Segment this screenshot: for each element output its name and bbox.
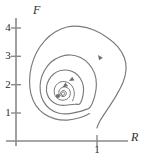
flow-arrow-middle-loop <box>69 77 74 81</box>
figure-container: F R 4 3 2 1 1 <box>0 0 147 160</box>
equilibrium-point-marker <box>56 94 60 98</box>
trajectory-curves <box>30 26 127 128</box>
x-axis-label: R <box>131 131 138 143</box>
y-tick-label-4: 4 <box>3 22 13 33</box>
flow-arrow-inner-loop <box>63 83 68 88</box>
y-axis-label: F <box>33 4 40 16</box>
y-tick-label-1: 1 <box>3 107 13 118</box>
x-tick-label-1: 1 <box>92 144 102 155</box>
trajectory-outer-trajectory <box>30 26 127 128</box>
phase-portrait-plot <box>0 0 147 160</box>
y-tick-label-2: 2 <box>3 79 13 90</box>
flow-arrow-outer-trajectory <box>98 55 103 60</box>
y-tick-label-3: 3 <box>3 50 13 61</box>
